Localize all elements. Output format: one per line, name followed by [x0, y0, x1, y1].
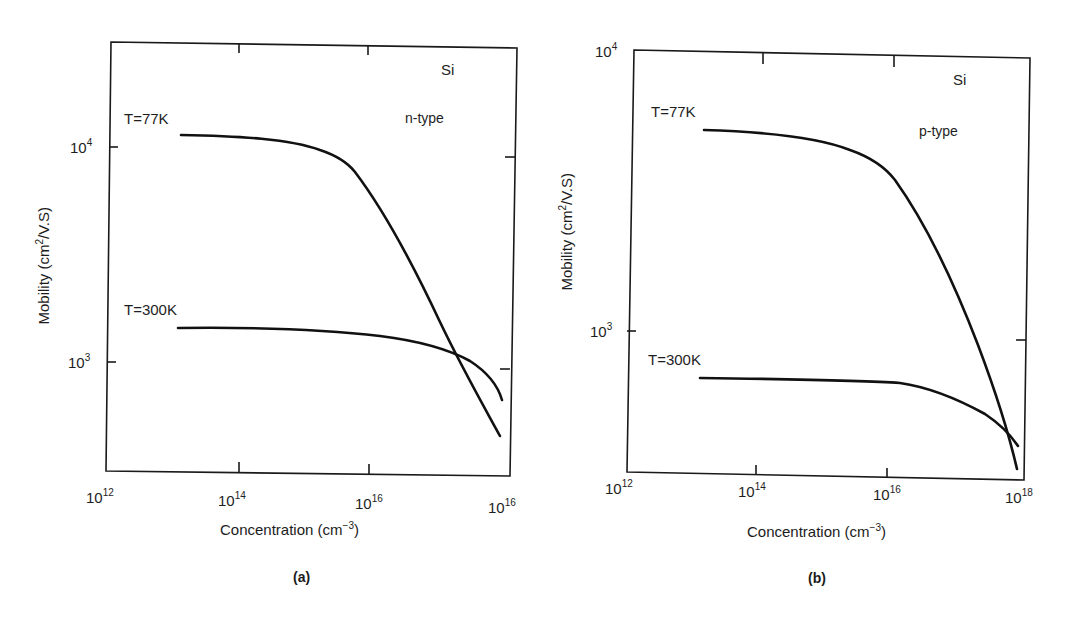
- chart-a-x-tick-2: 1016: [355, 496, 383, 511]
- chart-b-label-300k: T=300K: [648, 352, 701, 367]
- chart-a-doping-label: n-type: [405, 111, 444, 125]
- chart-b-y-axis-label: Mobility (cm2/V.S): [559, 161, 574, 291]
- chart-a-x-tick-3: 1016: [488, 500, 516, 515]
- chart-b-series-300k: [700, 378, 1018, 446]
- chart-a-frame: [106, 42, 517, 476]
- chart-a-x-axis-label: Concentration (cm−3): [220, 522, 359, 537]
- chart-a-caption: (a): [293, 570, 310, 584]
- chart-a-series-300k: [178, 328, 502, 400]
- chart-a-axes: [106, 42, 517, 476]
- chart-a-y-axis-label: Mobility (cm2/V.S): [36, 195, 51, 325]
- chart-a-curves: [178, 135, 502, 436]
- chart-a-material-label: Si: [441, 62, 454, 77]
- chart-b-y-tick-1e4: 104: [595, 44, 617, 59]
- chart-b-doping-label: p-type: [919, 124, 958, 138]
- chart-a-x-tick-0: 1012: [86, 490, 114, 505]
- chart-b-material-label: Si: [953, 72, 966, 87]
- chart-b-series-77k: [704, 130, 1017, 469]
- chart-a-x-tick-1: 1014: [218, 493, 246, 508]
- chart-b-x-tick-2: 1016: [873, 487, 901, 502]
- chart-a-label-77k: T=77K: [124, 111, 169, 126]
- chart-a-y-tick-1e4: 104: [70, 140, 92, 155]
- chart-b-x-tick-0: 1012: [605, 481, 633, 496]
- chart-b-label-77k: T=77K: [651, 104, 696, 119]
- chart-a-series-77k: [181, 135, 500, 436]
- chart-b-curves: [700, 130, 1018, 469]
- chart-b-x-tick-3: 1018: [1005, 490, 1033, 505]
- chart-b-x-axis-label: Concentration (cm−3): [747, 524, 886, 539]
- chart-a-y-tick-1e3: 103: [68, 355, 90, 370]
- chart-b-y-tick-1e3: 103: [590, 324, 612, 339]
- chart-b-caption: (b): [808, 571, 826, 585]
- chart-a-label-300k: T=300K: [124, 302, 177, 317]
- chart-b-x-tick-1: 1014: [738, 484, 766, 499]
